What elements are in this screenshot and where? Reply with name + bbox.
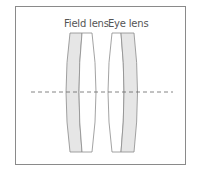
lens-diagram	[0, 0, 197, 177]
eye-lens-white-element	[108, 33, 124, 152]
field-lens-white-element	[79, 33, 96, 152]
